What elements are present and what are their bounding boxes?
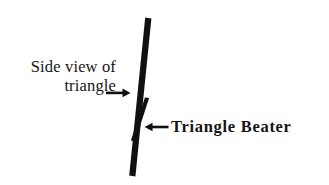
diagram-canvas: Side view of triangle Triangle Beater (0, 0, 329, 185)
side-view-of-triangle-label-line1: Side view of (8, 57, 116, 76)
side-view-of-triangle-label: Side view of triangle (8, 57, 116, 95)
triangle-beater-label: Triangle Beater (171, 117, 292, 136)
side-view-of-triangle-label-line2: triangle (8, 76, 116, 95)
arrow-pointing-left-to-beater (145, 123, 169, 132)
side-view-of-triangle-bar (129, 18, 151, 177)
